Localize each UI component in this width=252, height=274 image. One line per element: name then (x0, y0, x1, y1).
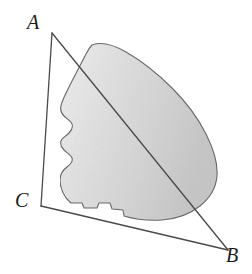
vertex-label-b: B (226, 245, 238, 265)
vertex-label-a: A (27, 12, 39, 32)
shaded-region-group (60, 44, 217, 221)
edge-a-c (41, 33, 52, 206)
figure-canvas (0, 0, 252, 274)
vertex-label-c: C (15, 190, 28, 210)
shaded-region (60, 44, 217, 221)
geometry-figure: A B C (0, 0, 252, 274)
